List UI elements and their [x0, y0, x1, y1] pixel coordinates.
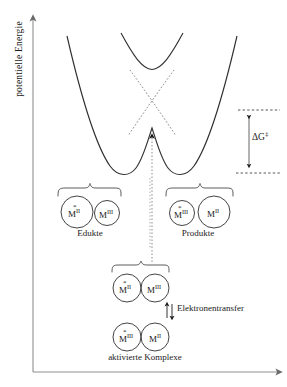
species-komplex-oben-2: MIII [147, 284, 161, 295]
diagram-canvas: potentielle Energie ΔG‡ Edukte Produkte … [0, 0, 287, 387]
excited-state-marker: * [73, 204, 77, 211]
species-charge: III [107, 208, 113, 215]
species-edukt-1: * MII [68, 208, 80, 219]
elektronentransfer-label: Elektronentransfer [177, 303, 285, 313]
axis-lines [33, 18, 279, 372]
barrier-energy-label: ΔG‡ [252, 130, 286, 142]
species-charge: III [182, 208, 188, 215]
species-symbol: M [147, 285, 155, 295]
species-symbol: M [99, 210, 107, 220]
species-charge: II [215, 207, 219, 214]
excited-state-marker: * [123, 280, 127, 287]
species-produkt-1: * MIII [174, 209, 188, 220]
y-axis-label: potentielle Energie [14, 4, 24, 114]
species-komplex-oben-1: * MII [119, 284, 131, 295]
excited-state-marker: * [123, 329, 127, 336]
upper-adiabatic-curve [121, 33, 183, 70]
diagram-vector-layer [0, 0, 287, 387]
species-edukt-2: MIII [99, 209, 113, 220]
species-symbol: M [149, 334, 157, 344]
brace-komplex-oben [112, 261, 169, 272]
aktivierte-komplexe-label: aktivierte Komplexe [75, 352, 215, 362]
species-komplex-unten-2: MII [149, 333, 161, 344]
equilibrium-arrow [167, 304, 172, 318]
barrier-energy-superscript: ‡ [265, 130, 269, 138]
species-charge: II [157, 332, 161, 339]
diabatic-curves [128, 70, 176, 136]
species-symbol: M [207, 209, 215, 219]
species-charge: III [127, 332, 133, 339]
brace-produkte [166, 184, 233, 197]
lower-adiabatic-curve [67, 36, 237, 175]
produkte-label: Produkte [160, 228, 236, 238]
species-komplex-unten-1: * MIII [119, 333, 133, 344]
species-charge: III [155, 283, 161, 290]
barrier-energy-symbol: ΔG [252, 132, 265, 142]
edukte-label: Edukte [54, 228, 126, 238]
diabatic-reactant-curve [130, 70, 176, 136]
diabatic-product-curve [128, 70, 174, 136]
brace-edukte [58, 184, 121, 197]
species-charge: II [127, 283, 131, 290]
species-produkt-2: MII [207, 208, 219, 219]
excited-state-marker: * [178, 205, 182, 212]
